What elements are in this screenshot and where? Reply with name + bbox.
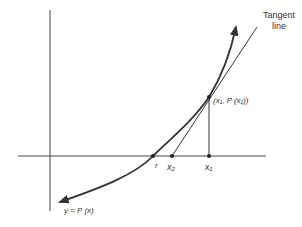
tangent-line-label-1: Tangent [263,10,296,20]
r-label: r [155,161,158,170]
curve-p-of-x [60,27,236,202]
curve-label: y = P (x) [63,206,94,215]
point-x2 [170,154,174,158]
x1-label: x₁ [204,162,213,172]
x2-label: x₂ [166,162,176,172]
tangent-point-label: (x₁, P (x₁)) [213,96,249,105]
tangent-line [172,27,257,156]
point-tangent [207,95,211,99]
diagram-canvas: Tangent line (x₁, P (x₁)) r x₂ x₁ y = P … [0,0,302,227]
point-x1 [207,154,211,158]
point-r [151,154,155,158]
tangent-line-label-2: line [272,21,286,31]
